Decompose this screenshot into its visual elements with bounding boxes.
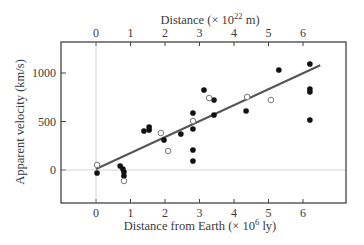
filled-data-point [190, 110, 196, 116]
top-tick-label: 6 [300, 26, 306, 40]
filled-data-point [201, 87, 207, 93]
x-axis-title-tail: ly) [259, 219, 276, 233]
bottom-tick-label: 6 [300, 206, 306, 220]
x-axis-title: Distance from Earth (× 106 ly) [124, 217, 277, 233]
top-tick-label: 4 [231, 26, 237, 40]
top-axis-ticks: 0123456 [93, 26, 306, 46]
open-data-point [158, 130, 164, 136]
filled-data-point [307, 89, 313, 95]
top-axis-title-text: Distance (× 10 [160, 13, 234, 27]
left-tick-label: 1000 [32, 66, 56, 80]
filled-data-point [243, 108, 249, 114]
bottom-tick-label: 3 [197, 206, 203, 220]
left-tick-label: 0 [50, 163, 56, 177]
plot-frame [61, 42, 346, 203]
top-tick-label: 3 [197, 26, 203, 40]
fit-line [96, 65, 320, 169]
top-axis-title: Distance (× 1022 m) [160, 11, 259, 27]
data-points [94, 61, 312, 184]
y-axis-title: Apparent velocity (km/s) [13, 59, 27, 185]
top-axis-title-tail: m) [243, 13, 260, 27]
top-tick-label: 5 [266, 26, 272, 40]
bottom-tick-label: 4 [231, 206, 237, 220]
filled-data-point [190, 126, 196, 132]
svg-text:Distance from Earth (× 106 ly): Distance from Earth (× 106 ly) [124, 217, 277, 233]
open-data-point [94, 162, 100, 168]
filled-data-point [178, 131, 184, 137]
top-tick-label: 0 [93, 26, 99, 40]
filled-data-point [146, 127, 152, 133]
open-data-point [244, 94, 250, 100]
filled-data-point [307, 117, 313, 123]
bottom-tick-label: 2 [162, 206, 168, 220]
top-tick-label: 2 [162, 26, 168, 40]
filled-data-point [94, 170, 100, 176]
open-data-point [165, 148, 171, 154]
top-axis-title-sup: 22 [234, 11, 243, 21]
filled-data-point [190, 147, 196, 153]
svg-text:Distance (× 1022 m): Distance (× 1022 m) [160, 11, 259, 27]
x-axis-title-text: Distance from Earth (× 10 [124, 219, 255, 233]
filled-data-point [190, 158, 196, 164]
filled-data-point [211, 112, 217, 118]
filled-data-point [276, 67, 282, 73]
bottom-tick-label: 5 [266, 206, 272, 220]
left-tick-label: 500 [38, 115, 56, 129]
filled-data-point [161, 137, 167, 143]
bottom-tick-label: 1 [128, 206, 134, 220]
open-data-point [206, 95, 212, 101]
bottom-tick-label: 0 [93, 206, 99, 220]
open-data-point [121, 178, 127, 184]
top-tick-label: 1 [128, 26, 134, 40]
filled-data-point [141, 128, 147, 134]
hubble-scatter-chart: Distance (× 1022 m) 0123456 0123456 0500… [0, 0, 364, 245]
filled-data-point [307, 61, 313, 67]
bottom-axis-ticks: 0123456 [93, 199, 306, 220]
zero-reference-lines [61, 42, 346, 203]
regression-line [96, 65, 320, 169]
open-data-point [190, 118, 196, 124]
open-data-point [268, 97, 274, 103]
